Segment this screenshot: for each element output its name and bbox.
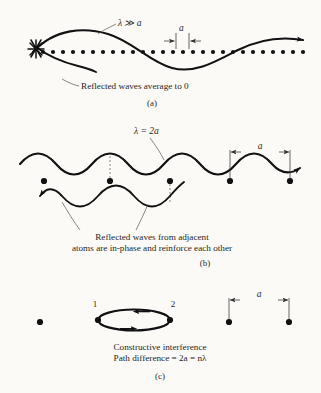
caption-b-line2: atoms are in-phase and reinforce each ot… [72, 243, 232, 253]
atom-row-a [41, 50, 305, 54]
spacing-label-c: a [257, 289, 262, 299]
panel-label-a: (a) [147, 98, 157, 108]
wavelength-label-a: λ ≫ a [117, 18, 142, 28]
wavelength-leader-a [98, 24, 116, 34]
caption-b-line1: Reflected waves from adjacent [95, 232, 209, 242]
spacing-dimension-a: a [164, 23, 201, 49]
caption-a: Reflected waves average to 0 [81, 81, 189, 91]
panel-c: 1 2 a Constructive interference Path dif… [37, 289, 292, 381]
wavelength-label-b: λ = 2a [133, 126, 159, 136]
panel-label-b: (b) [200, 258, 211, 268]
caption-c-line2: Path difference = 2a = nλ [114, 353, 208, 363]
incident-wave-a [33, 30, 303, 69]
wavelength-leader-b [150, 138, 164, 160]
wave-scattering-diagram: λ ≫ a a Reflected waves average to 0 (a) [0, 0, 321, 393]
panel-b: λ = 2a a Reflected waves from adjacent a… [20, 126, 300, 268]
spacing-label-b: a [258, 141, 263, 151]
caption-leader-a [62, 79, 79, 86]
spacing-dimension-c: a [229, 289, 289, 319]
path-label-2: 2 [171, 299, 176, 309]
reflected-wave-b2 [170, 182, 184, 196]
path-difference-loop [95, 310, 173, 331]
panel-label-c: (c) [155, 371, 165, 381]
caption-leader-b-2 [136, 204, 148, 230]
scatter-burst-icon [28, 40, 44, 58]
reflected-wave-b [40, 186, 170, 207]
panel-a: λ ≫ a a Reflected waves average to 0 (a) [28, 18, 305, 108]
atom-row-c [37, 319, 292, 325]
atom-row-b [41, 178, 293, 184]
caption-c-line1: Constructive interference [113, 342, 206, 352]
reflected-wave-a [36, 47, 96, 72]
spacing-label-a: a [179, 23, 184, 33]
path-label-1: 1 [93, 299, 98, 309]
incident-wave-b [20, 154, 300, 175]
